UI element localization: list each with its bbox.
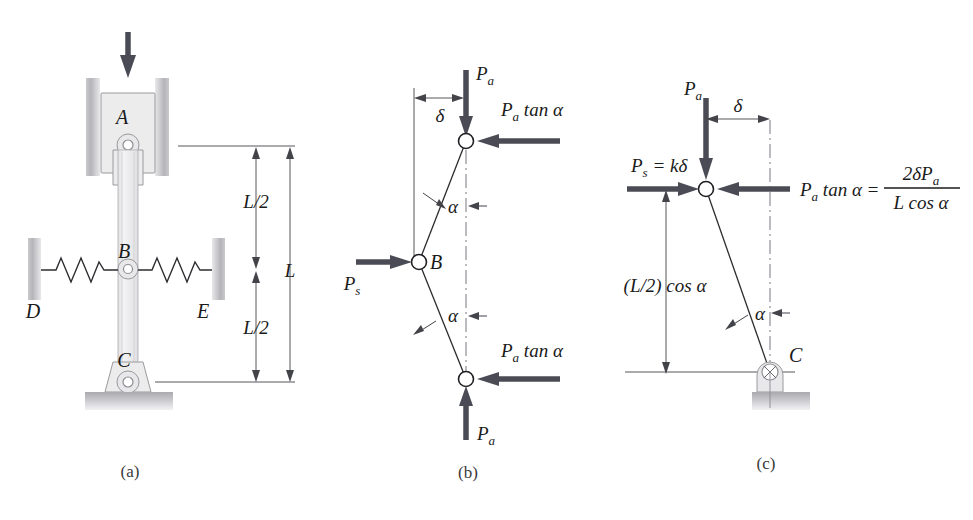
right-spring [138, 258, 212, 282]
spring-force-label-b: Ps [343, 273, 361, 298]
wall-label-d: D [25, 300, 41, 322]
dimension-label-upper-half: L/2 [242, 191, 269, 212]
wall-label-e: E [196, 300, 209, 322]
left-wall-d [28, 238, 41, 300]
equation-denominator: L cos α [892, 192, 949, 213]
lower-member-b [419, 262, 466, 379]
equation-numerator: 2δPa [903, 163, 940, 188]
left-guide-rail [86, 78, 100, 176]
figure-canvas: A B C D [0, 0, 973, 520]
spring-force-arrow-b [356, 255, 412, 269]
bottom-joint-b [459, 372, 474, 387]
joint-label-a: A [114, 106, 129, 128]
middle-joint-b [412, 255, 427, 270]
engineering-figure: A B C D [0, 0, 973, 520]
bottom-axial-load-arrow-b [459, 386, 473, 440]
delta-label-c: δ [734, 95, 744, 116]
axial-load-label-c: Pa [683, 78, 703, 103]
top-axial-load-label-b: Pa [475, 63, 495, 88]
support-label-c: C [789, 344, 803, 366]
bottom-axial-load-label-b: Pa [476, 423, 496, 448]
bottom-lateral-force-arrow-b [477, 372, 560, 386]
applied-load-arrow [120, 32, 136, 78]
right-guide-rail [155, 78, 169, 176]
dimension-label-total-length: L [284, 260, 296, 281]
pin-support-c [752, 362, 810, 410]
panel-b-label: (b) [458, 463, 478, 482]
delta-label-b: δ [436, 105, 446, 126]
top-joint-c [699, 182, 714, 197]
panel-a-label: (a) [121, 462, 140, 481]
lateral-force-equation-c: Pa tan α = 2δPa L cos α [799, 163, 960, 213]
top-axial-load-arrow-b [459, 70, 473, 137]
panel-c: Pa δ Ps = kδ [624, 78, 960, 473]
left-spring [41, 258, 118, 282]
top-lateral-force-arrow-b [477, 134, 560, 148]
angle-label-c: α [755, 303, 766, 324]
member-c [706, 189, 770, 372]
joint-b-pin [118, 259, 138, 279]
panel-c-label: (c) [757, 454, 776, 473]
upper-angle-label-b: α [448, 196, 459, 217]
spring-force-label-c: Ps = kδ [630, 155, 688, 180]
right-wall-e [212, 238, 225, 300]
joint-label-b-panel-b: B [430, 251, 442, 273]
delta-dimension-b [414, 94, 464, 102]
delta-dimension-c [706, 115, 770, 123]
top-lateral-force-label-b: Pa tan α [500, 99, 564, 124]
panel-b: δ Pa Pa tan α [343, 63, 564, 482]
spring-force-arrow-c [627, 182, 699, 196]
lateral-force-arrow-c [717, 182, 790, 196]
bottom-lateral-force-label-b: Pa tan α [500, 340, 564, 365]
joint-label-c: C [117, 349, 131, 371]
ground-support-hatching [85, 392, 173, 410]
axial-load-arrow-c [699, 98, 713, 180]
joint-label-b: B [118, 240, 130, 262]
top-joint-b [459, 134, 474, 149]
height-dimension-label-c: (L/2) cos α [624, 275, 708, 297]
lower-angle-label-b: α [448, 305, 459, 326]
svg-text:Pa tan α =: Pa tan α = [799, 179, 879, 204]
panel-a: A B C D [25, 32, 296, 481]
upper-member-b [419, 141, 466, 262]
dimension-label-lower-half: L/2 [242, 317, 269, 338]
